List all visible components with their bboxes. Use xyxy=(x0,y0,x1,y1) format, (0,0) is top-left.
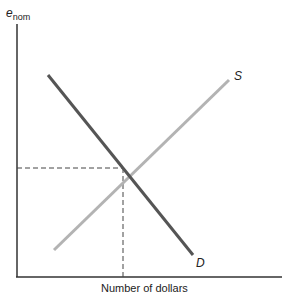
supply-curve xyxy=(54,80,229,250)
supply-demand-chart: S D enom Number of dollars xyxy=(0,0,293,299)
x-axis-label: Number of dollars xyxy=(101,282,188,294)
demand-label: D xyxy=(196,256,205,270)
y-axis-label: enom xyxy=(6,6,30,22)
supply-label: S xyxy=(234,69,242,83)
demand-curve xyxy=(48,75,193,255)
y-axis-label-sub: nom xyxy=(13,12,31,22)
